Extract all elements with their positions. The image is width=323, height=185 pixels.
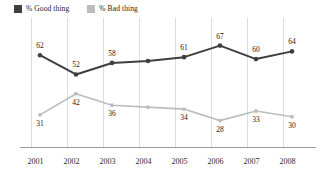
data-point-label: 60 <box>252 46 260 54</box>
series-lines <box>40 46 292 121</box>
data-point-marker <box>254 57 259 62</box>
x-axis-tick: 2002 <box>64 158 80 166</box>
x-axis-tick-labels: 20012002200320042005200620072008 <box>0 158 323 178</box>
data-point-marker <box>218 43 223 48</box>
x-axis-tick: 2006 <box>208 158 224 166</box>
plot-area: 6252586167606431423634283330 <box>0 18 323 156</box>
legend-swatch-bad-thing <box>87 5 95 13</box>
x-axis-tick: 2004 <box>136 158 152 166</box>
data-point-marker <box>38 113 42 117</box>
x-axis-tick: 2008 <box>280 158 296 166</box>
data-point-label: 42 <box>72 99 80 107</box>
data-point-marker <box>182 107 186 111</box>
data-point-marker <box>254 109 258 113</box>
data-point-marker <box>218 119 222 123</box>
x-axis-tick: 2007 <box>244 158 260 166</box>
chart-legend: % Good thing % Bad thing <box>14 2 138 15</box>
data-point-marker <box>38 53 43 58</box>
data-point-marker <box>74 72 79 77</box>
data-point-marker <box>290 115 294 119</box>
data-point-label: 52 <box>72 61 80 69</box>
x-axis-tick: 2001 <box>28 158 44 166</box>
chart-container: % Good thing % Bad thing 625258616760643… <box>0 0 323 185</box>
data-point-label: 58 <box>108 50 116 58</box>
chart-svg <box>0 18 323 156</box>
data-point-marker <box>110 61 115 66</box>
data-point-marker <box>146 59 151 64</box>
data-point-label: 67 <box>216 33 224 41</box>
data-point-label: 30 <box>288 122 296 130</box>
data-point-label: 36 <box>108 110 116 118</box>
x-axis-tick: 2005 <box>172 158 188 166</box>
data-point-label: 28 <box>216 126 224 134</box>
data-point-label: 62 <box>36 42 44 50</box>
legend-entry-bad-thing: % Bad thing <box>87 5 138 13</box>
data-point-marker <box>146 105 150 109</box>
data-point-marker <box>110 103 114 107</box>
gridlines <box>32 18 284 148</box>
legend-label-good-thing: % Good thing <box>26 5 69 13</box>
data-point-label: 61 <box>180 44 188 52</box>
x-axis-tick: 2003 <box>100 158 116 166</box>
data-point-label: 31 <box>36 120 44 128</box>
data-point-label: 64 <box>288 38 296 46</box>
legend-swatch-good-thing <box>14 5 22 13</box>
data-point-label: 33 <box>252 116 260 124</box>
data-point-marker <box>74 92 78 96</box>
legend-label-bad-thing: % Bad thing <box>99 5 138 13</box>
data-point-marker <box>182 55 187 60</box>
data-point-marker <box>290 49 295 54</box>
series-markers <box>38 43 295 122</box>
data-point-label: 34 <box>180 114 188 122</box>
legend-entry-good-thing: % Good thing <box>14 5 69 13</box>
